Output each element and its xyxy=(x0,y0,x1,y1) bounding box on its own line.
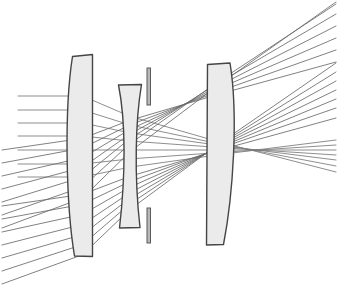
lens-element-front-positive-meniscus xyxy=(67,55,92,257)
aperture-stop-upper-blade xyxy=(147,68,151,105)
optical-ray-trace-diagram xyxy=(0,0,338,304)
aperture-stop-lower-blade xyxy=(147,208,151,243)
optics-canvas xyxy=(0,0,338,304)
